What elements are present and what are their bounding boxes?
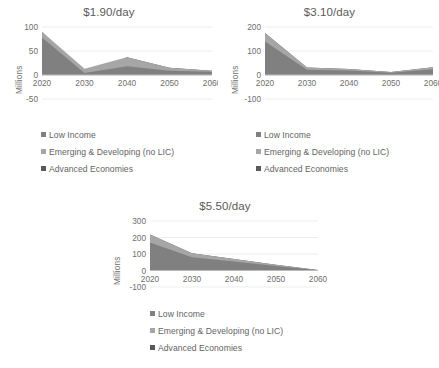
svg-text:2030: 2030 [75,78,94,88]
legend-label-emerging-developing: Emerging & Developing (no LIC) [158,326,283,336]
legend-label-low-income: Low Income [49,130,96,140]
legend-swatch-emerging-developing [41,149,46,154]
chart-legend-2: Low Income Emerging & Developing (no LIC… [220,126,439,177]
svg-text:2050: 2050 [267,274,286,284]
svg-text:2040: 2040 [340,78,359,88]
legend-swatch-advanced-economies [150,345,155,350]
legend-item-advanced-economies[interactable]: Advanced Economies [150,339,400,356]
svg-text:100: 100 [247,46,261,56]
legend-label-low-income: Low Income [158,309,205,319]
chart-title: $3.10/day [220,5,439,19]
chart-panel-5-50-day: $5.50/day Millions 3002001000-1002020203… [100,194,350,368]
legend-swatch-advanced-economies [41,166,46,171]
chart-plot-2: 2001000-10020202030204020502060 [220,19,439,129]
svg-text:2040: 2040 [118,78,137,88]
svg-text:2030: 2030 [298,78,317,88]
legend-item-advanced-economies[interactable]: Advanced Economies [256,160,439,177]
chart-plot-1: 100500-5020202030204020502060 [0,19,218,129]
legend-label-emerging-developing: Emerging & Developing (no LIC) [49,147,174,157]
svg-text:2050: 2050 [382,78,401,88]
legend-swatch-low-income [256,132,261,137]
legend-swatch-low-income [150,311,155,316]
legend-swatch-low-income [41,132,46,137]
svg-text:50: 50 [29,46,39,56]
svg-text:2020: 2020 [141,274,160,284]
legend-swatch-advanced-economies [256,166,261,171]
svg-text:200: 200 [132,233,146,243]
chart-panel-1-90-day: $1.90/day Millions 100500-50202020302040… [0,0,218,190]
svg-text:200: 200 [247,22,261,32]
plot-area-wrapper: Millions 3002001000-10020202030204020502… [100,213,350,313]
legend-item-low-income[interactable]: Low Income [256,126,439,143]
legend-swatch-emerging-developing [150,328,155,333]
y-axis-label: Millions [112,257,122,285]
svg-text:2030: 2030 [183,274,202,284]
poverty-projection-figure: $1.90/day Millions 100500-50202020302040… [0,0,439,368]
legend-item-low-income[interactable]: Low Income [150,305,400,322]
svg-text:2060: 2060 [424,78,439,88]
chart-title: $5.50/day [100,199,350,213]
legend-label-emerging-developing: Emerging & Developing (no LIC) [264,147,389,157]
svg-text:300: 300 [132,216,146,226]
svg-text:2020: 2020 [256,78,275,88]
svg-text:2060: 2060 [309,274,328,284]
legend-label-advanced-economies: Advanced Economies [158,343,242,353]
svg-text:100: 100 [24,22,38,32]
plot-area-wrapper: Millions 2001000-10020202030204020502060 [220,19,439,129]
legend-swatch-emerging-developing [256,149,261,154]
legend-label-advanced-economies: Advanced Economies [49,164,133,174]
svg-text:100: 100 [132,249,146,259]
svg-text:-50: -50 [26,94,38,104]
svg-text:2020: 2020 [33,78,52,88]
y-axis-label: Millions [230,66,240,94]
svg-text:2050: 2050 [160,78,179,88]
svg-text:-100: -100 [244,94,261,104]
svg-text:2040: 2040 [225,274,244,284]
chart-title: $1.90/day [0,5,218,19]
chart-legend-3: Low Income Emerging & Developing (no LIC… [100,305,400,356]
legend-item-emerging-developing[interactable]: Emerging & Developing (no LIC) [256,143,439,160]
legend-item-emerging-developing[interactable]: Emerging & Developing (no LIC) [150,322,400,339]
chart-panel-3-10-day: $3.10/day Millions 2001000-1002020203020… [220,0,439,190]
legend-label-low-income: Low Income [264,130,311,140]
svg-text:-100: -100 [129,282,146,292]
plot-area-wrapper: Millions 100500-5020202030204020502060 [0,19,218,129]
legend-label-advanced-economies: Advanced Economies [264,164,348,174]
y-axis-label: Millions [14,66,24,94]
svg-text:2060: 2060 [203,78,218,88]
chart-plot-3: 3002001000-10020202030204020502060 [100,213,350,313]
